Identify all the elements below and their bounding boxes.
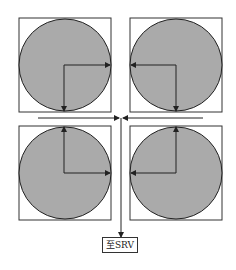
unit-top-right xyxy=(130,18,222,112)
unit-top-left xyxy=(19,18,111,112)
unit-bottom-left xyxy=(19,126,111,220)
diagram-canvas xyxy=(0,0,236,270)
unit-bottom-right xyxy=(130,126,222,220)
output-label: 至SRV xyxy=(102,237,138,253)
